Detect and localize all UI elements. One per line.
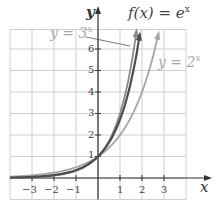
curves: [10, 28, 160, 178]
curve-3-pow-x: [10, 31, 137, 178]
x-tick-3: 3: [161, 184, 167, 195]
legend-3x-base: y = 3: [50, 25, 87, 41]
curve-arrow-icon: [154, 30, 160, 40]
legend-2x-base: y = 2: [158, 54, 195, 70]
x-tick-m3: −3: [22, 184, 37, 195]
plot-area: [0, 0, 219, 209]
x-tick-m1: −1: [66, 184, 81, 195]
legend-ex-base: f(x) = e: [128, 4, 185, 22]
legend-ex-sup: x: [185, 4, 190, 14]
y-tick-3: 3: [88, 107, 94, 118]
y-axis-arrow-icon: [95, 6, 101, 14]
y-axis-label: y: [86, 3, 95, 21]
x-tick-m2: −2: [44, 184, 59, 195]
y-tick-2: 2: [88, 129, 94, 140]
legend-2x: y = 2x: [158, 53, 201, 70]
legend-3x-sup: x: [87, 24, 92, 34]
x-axis-label: x: [200, 178, 208, 196]
y-tick-6: 6: [88, 43, 94, 54]
axes: [10, 6, 212, 200]
legend-3x: y = 3x: [50, 24, 93, 41]
x-tick-1: 1: [117, 184, 123, 195]
legend-ex: f(x) = ex: [128, 4, 190, 22]
y-tick-4: 4: [88, 86, 94, 97]
legend-2x-sup: x: [195, 53, 200, 63]
exponential-functions-chart: y x f(x) = ex y = 3x y = 2x −3 −2 −1 1 2…: [0, 0, 219, 209]
y-tick-1: 1: [88, 149, 94, 160]
x-tick-2: 2: [139, 184, 145, 195]
y-tick-5: 5: [88, 64, 94, 75]
